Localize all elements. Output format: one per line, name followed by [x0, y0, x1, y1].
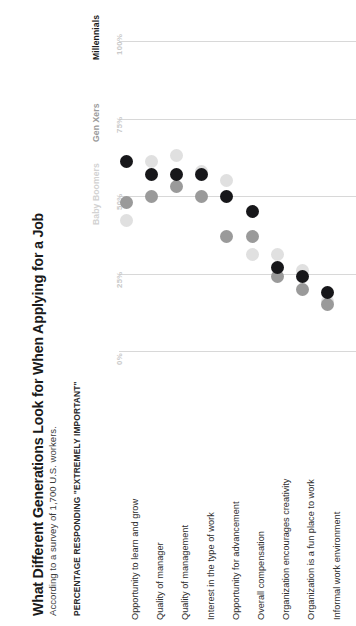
legend-item-gen-xers[interactable]: Gen Xers — [91, 103, 101, 142]
data-point — [145, 190, 158, 203]
legend-item-baby-boomers[interactable]: Baby Boomers — [91, 163, 101, 225]
data-point — [145, 155, 158, 168]
data-point — [120, 196, 133, 209]
x-category-label: Organization is a fun place to work — [306, 479, 316, 620]
data-point — [220, 174, 233, 187]
data-point — [271, 248, 284, 261]
y-tick-label: 0% — [115, 353, 124, 365]
x-category-label: Overall compensation — [256, 531, 266, 620]
y-tick-label: 100% — [115, 34, 124, 55]
gridline-75 — [119, 119, 356, 120]
gridline-100 — [119, 41, 356, 42]
data-point — [271, 261, 284, 274]
data-point — [145, 168, 158, 181]
gridline-0 — [119, 351, 356, 352]
data-point — [170, 180, 183, 193]
data-point — [246, 248, 259, 261]
y-axis-title: PERCENTAGE RESPONDING "EXTREMELY IMPORTA… — [72, 381, 82, 616]
data-point — [246, 230, 259, 243]
data-point — [170, 149, 183, 162]
x-category-label: Quality of management — [180, 525, 190, 620]
x-category-label: Informal work environment — [332, 512, 342, 620]
page-title: What Different Generations Look for When… — [30, 213, 46, 616]
legend-item-millennials[interactable]: Millennials — [91, 15, 101, 60]
subtitle: According to a survey of 1,700 U.S. work… — [47, 426, 58, 616]
data-point — [296, 270, 309, 283]
x-category-label: Organization encourages creativity — [281, 479, 291, 620]
data-point — [220, 230, 233, 243]
x-category-label: Quality of manager — [155, 542, 165, 620]
data-point — [246, 205, 259, 218]
data-point — [170, 168, 183, 181]
data-point — [321, 286, 334, 299]
gridline-25 — [119, 274, 356, 275]
data-point — [321, 298, 334, 311]
x-category-label: Interest in the type of work — [206, 512, 216, 620]
data-point — [120, 155, 133, 168]
data-point — [120, 214, 133, 227]
data-point — [195, 168, 208, 181]
data-point — [296, 283, 309, 296]
x-category-label: Opportunity to learn and grow — [130, 499, 140, 620]
data-point — [220, 190, 233, 203]
y-tick-label: 75% — [115, 116, 124, 133]
y-tick-label: 25% — [115, 271, 124, 288]
data-point — [195, 190, 208, 203]
scatter-plot: 0%25%50%75%100% — [105, 28, 356, 364]
x-category-label: Opportunity for advancement — [231, 502, 241, 620]
